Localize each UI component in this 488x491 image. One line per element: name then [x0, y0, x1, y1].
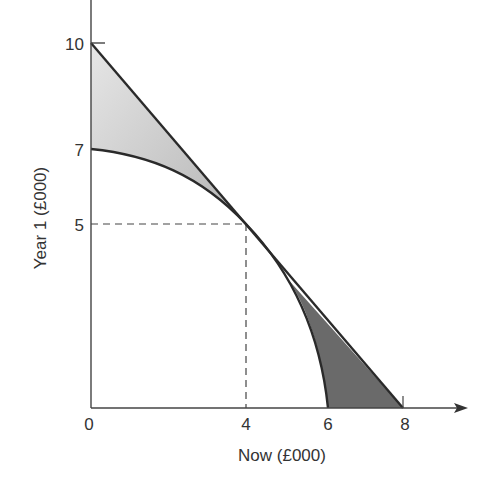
- y-tick-label-7: 7: [75, 141, 84, 160]
- x-axis-title: Now (£000): [238, 446, 326, 465]
- chart: 10 7 5 0 4 6 8 Now (£000) Year 1 (£000): [0, 0, 488, 491]
- y-axis-title: Year 1 (£000): [31, 167, 50, 269]
- x-tick-label-6: 6: [323, 415, 332, 434]
- y-tick-label-10: 10: [65, 35, 84, 54]
- x-tick-label-4: 4: [241, 415, 250, 434]
- x-tick-label-0: 0: [84, 415, 93, 434]
- y-tick-label-5: 5: [75, 216, 84, 235]
- x-tick-label-8: 8: [400, 415, 409, 434]
